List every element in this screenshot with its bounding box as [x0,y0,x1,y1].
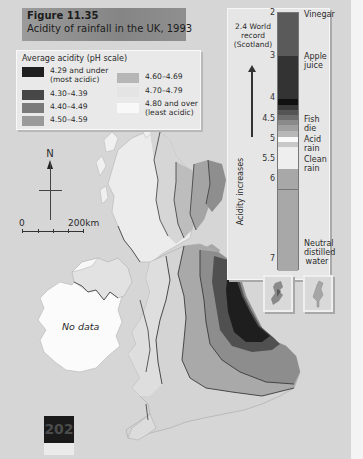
ph-scale-panel: 2.4 World record (Scotland) Acidity incr… [227,8,330,280]
legend-swatch [22,103,44,113]
ph-tick: 5.5 [259,154,275,163]
ph-tick: 7 [259,254,275,263]
north-label: N [46,148,53,159]
ph-label-vinegar: Vinegar [304,10,335,19]
ph-label-apple-juice: Apple juice [304,52,329,70]
legend-swatch [117,87,139,97]
legend-swatch [22,90,44,100]
legend-title: Average acidity (pH scale) [22,54,195,64]
legend-item: 4.30–4.39 [22,89,88,100]
scale-bar: 0 200km [14,218,88,238]
legend-swatch [117,103,139,113]
ph-label-fish-die: Fish die [304,115,329,133]
ph-label-neutral-water: Neutral distilled water [304,239,330,266]
page-number: 202 [44,416,74,443]
acidity-axis-label: Acidity increases [236,158,245,226]
legend-item: 4.80 and over (least acidic) [117,99,198,117]
ph-gradient-bar [277,12,299,270]
legend-item: 4.40–4.49 [22,102,88,113]
no-data-label: No data [62,321,99,332]
ph-label-clean-rain: Clean rain [304,155,329,173]
inset-map-thumbnail [263,275,293,312]
inset-map-thumbnail [303,275,333,312]
map-thumbnail-icon [305,277,331,310]
figure-number: Figure 11.35 [27,10,181,22]
ph-tick: 5 [259,134,275,143]
legend-item: 4.29 and under (most acidic) [22,66,108,84]
map-thumbnail-icon [265,277,291,310]
world-record-label: 2.4 World record (Scotland) [231,22,275,49]
figure-title-box: Figure 11.35 Acidity of rainfall in the … [22,8,186,41]
ph-tick: 4 [259,93,275,102]
ph-label-acid-rain: Acid rain [304,135,329,153]
ph-tick: 2 [259,8,275,17]
textbook-page: Figure 11.35 Acidity of rainfall in the … [0,0,351,459]
ph-tick: 4.5 [259,114,275,123]
ph-tick: 6 [259,174,275,183]
legend-item: 4.60–4.69 [117,72,183,83]
legend-item: 4.50–4.59 [22,115,88,126]
page-margin [351,0,363,459]
north-arrow: N [30,150,70,220]
scale-start: 0 [19,218,25,228]
legend-swatch [22,67,44,77]
legend-swatch [22,116,44,126]
legend-swatch [117,73,139,83]
acidity-legend: Average acidity (pH scale) 4.29 and unde… [16,50,201,130]
ph-tick: 3 [259,51,275,60]
legend-item: 4.70–4.79 [117,86,183,97]
arrow-up-icon [251,71,253,137]
scale-end: 200km [68,218,99,228]
figure-caption: Acidity of rainfall in the UK, 1993 [27,22,181,35]
